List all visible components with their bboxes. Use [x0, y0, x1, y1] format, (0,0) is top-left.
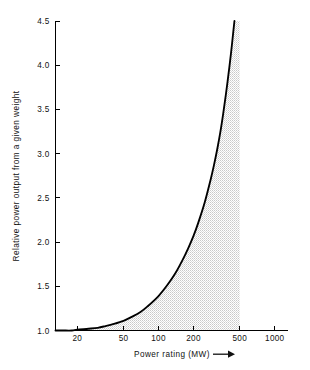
y-axis-title: Relative power output from a given weigh… [12, 90, 21, 261]
x-tick-label: 20 [72, 334, 82, 343]
y-tick-marks [56, 21, 61, 331]
x-tick-labels: 20501002005001000 [72, 334, 284, 343]
y-tick-label: 2.0 [37, 238, 49, 247]
chart-figure: 20501002005001000 1.01.52.02.53.03.54.04… [0, 0, 310, 370]
x-axis-title: Power rating (MW) [134, 350, 210, 359]
x-tick-label: 500 [232, 334, 247, 343]
x-axis-title-group: Power rating (MW) [134, 350, 235, 359]
y-tick-label: 1.0 [37, 327, 49, 336]
y-axis-title-group: Relative power output from a given weigh… [12, 90, 21, 261]
x-tick-label: 200 [186, 334, 201, 343]
y-tick-label: 3.5 [37, 105, 49, 114]
chart-canvas: 20501002005001000 1.01.52.02.53.03.54.04… [0, 0, 310, 370]
x-tick-label: 100 [151, 334, 166, 343]
y-tick-label: 4.5 [37, 17, 49, 26]
y-tick-label: 3.0 [37, 150, 49, 159]
x-tick-label: 1000 [265, 334, 285, 343]
x-tick-label: 50 [119, 334, 129, 343]
y-tick-label: 2.5 [37, 194, 49, 203]
y-tick-labels: 1.01.52.02.53.03.54.04.5 [37, 17, 49, 336]
right-arrow-icon [213, 351, 235, 358]
y-axis-group: 1.01.52.02.53.03.54.04.5 [37, 17, 60, 336]
y-tick-label: 4.0 [37, 61, 49, 70]
y-tick-label: 1.5 [37, 282, 49, 291]
